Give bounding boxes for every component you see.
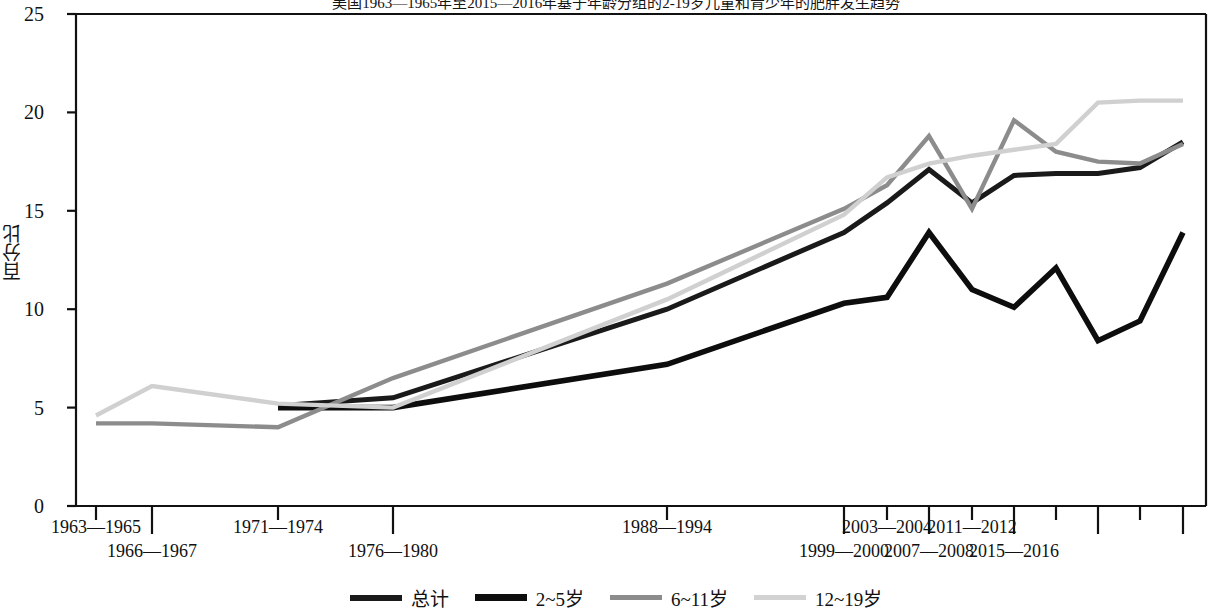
x-tick-label: 1971—1974: [233, 518, 323, 536]
legend-label: 总计: [411, 584, 449, 611]
y-tick-value: 5: [4, 398, 44, 418]
series-lines: [96, 101, 1183, 428]
y-tick-value: 20: [4, 102, 44, 122]
legend-label: 6~11岁: [671, 584, 728, 611]
legend-swatch-icon: [610, 595, 662, 600]
y-tick-value: 15: [4, 201, 44, 221]
legend-item[interactable]: 12~19岁: [754, 584, 882, 611]
y-tick-value: 25: [4, 4, 44, 24]
legend-item[interactable]: 6~11岁: [610, 584, 728, 611]
legend-label: 2~5岁: [536, 584, 584, 611]
x-tick-label: 2007—2008: [884, 542, 974, 560]
x-tick-label: 1963—1965: [51, 518, 141, 536]
x-tick-label: 1988—1994: [622, 518, 712, 536]
x-tick-label: 2015—2016: [969, 542, 1059, 560]
y-tick-value: 0: [4, 496, 44, 516]
plot-area: [0, 0, 1232, 614]
x-tick-label: 1999—2000: [799, 542, 889, 560]
chart-figure: 美国1963—1965年至2015—2016年基于年龄分组的2-19岁儿童和青少…: [0, 0, 1232, 614]
x-tick-label: 2011—2012: [927, 518, 1016, 536]
legend-item[interactable]: 2~5岁: [475, 584, 584, 611]
legend-item[interactable]: 总计: [350, 584, 449, 611]
y-axis-label: 百分比: [3, 224, 31, 281]
chart-title: 美国1963—1965年至2015—2016年基于年龄分组的2-19岁儿童和青少…: [0, 0, 1232, 12]
legend-swatch-icon: [754, 595, 806, 600]
chart-legend: 总计2~5岁6~11岁12~19岁: [0, 584, 1232, 611]
legend-swatch-icon: [475, 594, 527, 601]
legend-swatch-icon: [350, 595, 402, 601]
axis-lines: [67, 14, 1206, 534]
x-tick-label: 1966—1967: [107, 542, 197, 560]
x-tick-label: 1976—1980: [348, 542, 438, 560]
y-tick-value: 10: [4, 299, 44, 319]
legend-label: 12~19岁: [815, 584, 882, 611]
x-tick-label: 2003—2004: [842, 518, 932, 536]
series-line: [96, 120, 1183, 427]
